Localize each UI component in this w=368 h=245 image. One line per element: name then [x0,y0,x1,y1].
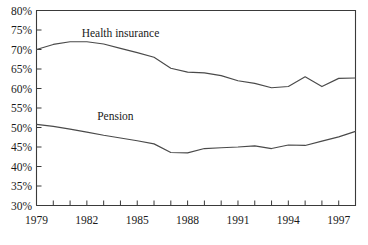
x-axis-tick-labels: 1979198219851988199119941997 [25,214,350,226]
plot-border [37,11,356,206]
data-series-line [37,42,356,88]
x-axis-tick-label: 1991 [226,214,249,226]
y-axis-tick-label: 35% [11,180,33,192]
series-annotation-label: Health insurance [82,27,160,39]
y-axis-tick-labels: 30%35%40%45%50%55%60%65%70%75%80% [11,5,33,212]
x-axis-tick-label: 1988 [176,214,199,226]
x-axis-tick-label: 1982 [75,214,98,226]
y-axis-tick-label: 55% [11,102,33,114]
y-axis-tick-label: 60% [11,83,33,95]
x-axis-tick-label: 1994 [277,214,300,226]
y-axis-tick-label: 30% [11,200,33,212]
series-annotation-label: Pension [97,110,134,122]
y-axis-tick-label: 80% [11,5,33,17]
x-axis-tick-marks [37,201,356,206]
chart-container: 30%35%40%45%50%55%60%65%70%75%80% 197919… [0,0,368,245]
y-axis-tick-label: 50% [11,122,33,134]
series-lines [37,42,356,153]
series-annotations: Health insurancePension [82,27,160,122]
x-axis-tick-label: 1985 [126,214,149,226]
y-axis-tick-label: 65% [11,63,33,75]
y-axis-tick-label: 70% [11,44,33,56]
y-axis-tick-label: 75% [11,24,33,36]
y-axis-tick-label: 45% [11,141,33,153]
y-axis-tick-marks [37,11,42,206]
y-axis-tick-label: 40% [11,161,33,173]
data-series-line [37,124,356,152]
x-axis-tick-label: 1997 [327,214,350,226]
line-chart: 30%35%40%45%50%55%60%65%70%75%80% 197919… [0,0,368,245]
x-axis-tick-label: 1979 [25,214,48,226]
plot-frame [37,11,356,206]
